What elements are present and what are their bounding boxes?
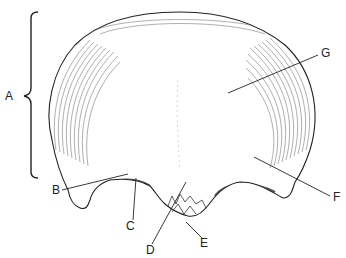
bracket-a: [24, 12, 38, 178]
leader-c: [133, 178, 136, 220]
label-d: D: [146, 244, 155, 256]
frontal-bone-diagram: A B C D E F G: [0, 0, 346, 258]
label-c: C: [126, 220, 135, 232]
frontal-bone-illustration: [0, 0, 346, 258]
label-f: F: [333, 191, 340, 203]
label-g: G: [321, 47, 330, 59]
label-e: E: [200, 237, 208, 249]
label-b: B: [52, 184, 60, 196]
label-a: A: [5, 90, 13, 102]
